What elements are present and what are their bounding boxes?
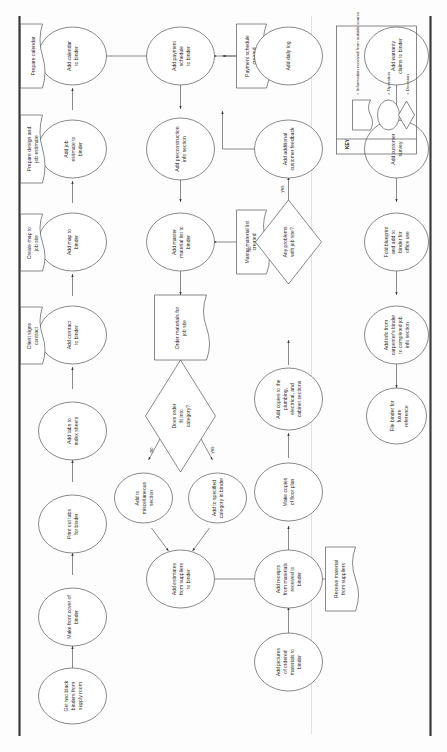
node-label: section	[147, 490, 153, 506]
node-label: to binder	[72, 325, 78, 345]
key-entry-label: = Decision	[404, 74, 409, 95]
node-label: Add info from	[382, 320, 388, 350]
node-label: binder for	[396, 231, 402, 253]
node-add-payment-schedule[interactable]: Add payment schedule to binder	[146, 27, 214, 85]
node-add-receipts-materials[interactable]: Add receipts from materials received to …	[254, 550, 322, 608]
node-label: Order materials for	[173, 306, 179, 349]
node-label: reference	[402, 405, 408, 427]
node-add-copies-trades-sections[interactable]: Add copies to the plumbing, electrical, …	[254, 368, 322, 430]
node-label: Add to specified	[210, 480, 216, 516]
node-label: Make front cover of	[65, 595, 71, 639]
node-label: future	[395, 409, 401, 422]
node-add-pictures-ordered-materials[interactable]: Add pictures of ordered materials to bin…	[254, 633, 322, 691]
node-label: miscellaneous	[140, 481, 146, 514]
node-add-job-estimate[interactable]: Add job estimate to binder	[38, 120, 106, 178]
node-label: to binder	[184, 46, 190, 66]
node-label: Add copies to the	[274, 379, 280, 419]
input-label: Prepare calendar	[29, 36, 35, 75]
node-label: electrical, and	[288, 383, 294, 415]
node-label: material list to	[177, 226, 183, 258]
edge-label-no: no	[148, 447, 153, 453]
node-label: received to	[288, 566, 294, 591]
input-label: Create map to	[25, 227, 31, 259]
node-label: Add pictures	[274, 647, 280, 676]
node-add-master-material-list[interactable]: Add master material list to binder	[146, 213, 214, 271]
node-label: from materials	[281, 562, 287, 595]
node-label: binder	[295, 572, 301, 586]
node-label: binder	[184, 235, 190, 249]
node-label: Add to	[133, 490, 139, 505]
rotated-canvas: Get two black binders from supply room M…	[0, 0, 447, 752]
node-label: Print out tabs	[65, 509, 71, 539]
input-order-materials[interactable]: Order materials for job site	[154, 295, 209, 360]
node-label: info section	[403, 322, 409, 348]
node-add-preconstruction-info[interactable]: Add preconstruction info section	[146, 118, 214, 180]
node-label: binder	[72, 610, 78, 624]
node-label: Add customer	[389, 133, 395, 165]
flowchart-svg: Get two black binders from supply room M…	[0, 0, 447, 752]
input-label: Payment schedule	[243, 35, 249, 77]
node-label: Add estimates	[170, 562, 176, 595]
node-add-tabs-index[interactable]: Add tabs to index sheets	[38, 402, 106, 460]
node-add-info-carpenter-binder[interactable]: Add info from carpenter's binder to comp…	[364, 306, 428, 364]
node-label: Add tabs to	[65, 418, 71, 444]
node-label: binder	[72, 235, 78, 249]
node-label: plumbing,	[281, 388, 287, 410]
node-add-customer-survey[interactable]: Add customer survey	[364, 120, 428, 178]
node-label: Add receipts	[274, 564, 280, 593]
node-add-estimates-suppliers[interactable]: Add estimates from suppliers to binder	[146, 550, 214, 608]
node-label: binder	[295, 655, 301, 669]
node-label: Add warranty	[389, 41, 395, 71]
node-label: Add job	[62, 140, 68, 157]
node-label: Fold blueprint	[382, 226, 388, 257]
node-add-customer-feedback[interactable]: Add additional customer feedback	[254, 120, 322, 178]
key-entry-label: = Operation	[385, 71, 390, 95]
node-label: Make copies	[281, 477, 287, 506]
node-add-miscellaneous[interactable]: Add to miscellaneous section	[114, 473, 172, 523]
node-label: from suppliers	[177, 563, 183, 595]
node-label: Add contract	[65, 320, 71, 349]
node-label: info section	[180, 136, 186, 162]
node-add-daily-log[interactable]: Add daily log	[254, 27, 322, 85]
input-label: from suppliers	[339, 563, 345, 595]
node-get-binders[interactable]: Get two black binders from supply room	[38, 668, 106, 724]
node-label: and add to	[389, 230, 395, 254]
node-label: category?	[184, 405, 190, 428]
node-add-map[interactable]: Add map to binder	[38, 213, 106, 271]
input-label: contract	[32, 326, 38, 345]
node-label: Does order	[170, 403, 176, 429]
node-make-front-cover[interactable]: Make front cover of binder	[38, 588, 106, 646]
node-label: schedule	[177, 46, 183, 67]
node-add-warranty-claims[interactable]: Add warranty claims to binder	[364, 27, 428, 85]
key-title: KEY	[344, 138, 349, 149]
node-label: index sheets	[72, 416, 78, 445]
node-file-binder-future[interactable]: File binder for future reference	[366, 388, 426, 444]
edge-label-no: no	[246, 246, 251, 252]
edge-label-yes: yes	[209, 446, 214, 454]
node-add-contract[interactable]: Add contract to binder	[38, 306, 106, 364]
node-make-copies-floor-plan[interactable]: Make copies of floor plan	[254, 463, 322, 521]
node-label: Add calendar	[65, 41, 71, 71]
node-label: fit into	[177, 409, 183, 423]
node-label: Any problems	[281, 226, 287, 258]
node-label: of ordered	[281, 650, 287, 673]
node-fold-blueprint[interactable]: Fold blueprint and add to binder for off…	[364, 213, 428, 271]
node-label: claims to binder	[396, 38, 402, 74]
node-label: Get two black	[62, 680, 68, 711]
node-label: job site	[180, 320, 186, 337]
node-label: with job site?	[288, 227, 294, 257]
node-print-tabs[interactable]: Print out tabs for binder	[38, 495, 106, 553]
node-label: Add daily log	[284, 41, 290, 70]
node-label: Add master	[170, 229, 176, 255]
node-label: to completed job	[396, 316, 402, 354]
node-label: binders from	[69, 682, 75, 710]
node-label: supply room	[76, 682, 82, 710]
input-label: Master material list	[243, 220, 249, 263]
input-label: job site	[32, 235, 38, 252]
input-receive-material-suppliers[interactable]: Receive material from suppliers	[325, 547, 358, 611]
node-add-calendar[interactable]: Add calendar to binder	[38, 27, 106, 85]
node-label: for binder	[72, 513, 78, 535]
input-label: Prepare design and	[25, 127, 31, 172]
node-add-specified-category[interactable]: Add to specified category in binder	[188, 473, 246, 523]
node-label: cabinet sections	[295, 380, 301, 417]
